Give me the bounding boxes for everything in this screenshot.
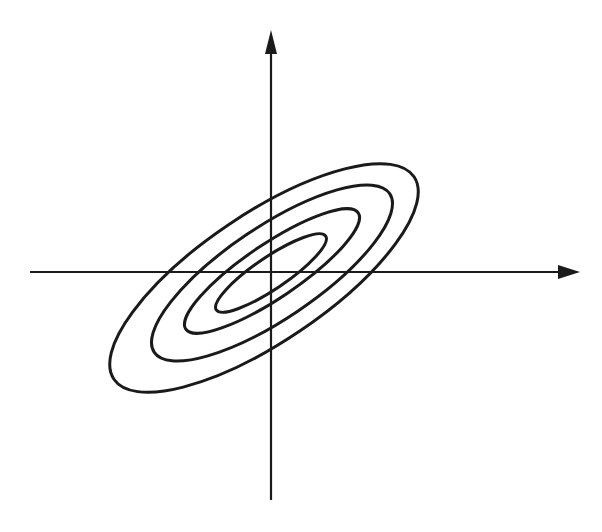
axes [30, 30, 580, 500]
contour-4-outer [78, 124, 450, 433]
contour-ellipses [78, 124, 450, 433]
contour-diagram [0, 0, 602, 532]
x-axis-arrowhead-icon [558, 265, 580, 279]
y-axis-arrowhead-icon [265, 30, 277, 54]
